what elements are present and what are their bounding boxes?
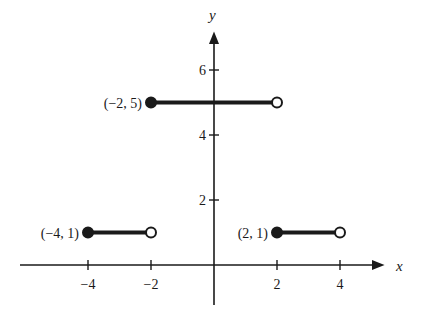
point-label: (−4, 1)	[41, 226, 80, 242]
step-function-plot: xy−4−224246 (−4, 1)(−2, 5)(2, 1)	[0, 0, 428, 326]
axes: xy−4−224246	[20, 7, 403, 305]
y-axis-label: y	[207, 7, 216, 23]
y-tick-label: 6	[199, 63, 206, 78]
segment-2: (−2, 5)	[104, 96, 282, 112]
x-tick-label: −4	[81, 277, 96, 292]
x-tick-label: 2	[274, 277, 281, 292]
segment-1: (−4, 1)	[41, 226, 156, 242]
point-label: (2, 1)	[238, 226, 269, 242]
point-label: (−2, 5)	[104, 96, 143, 112]
closed-endpoint	[83, 228, 93, 238]
y-tick-label: 2	[199, 193, 206, 208]
closed-endpoint	[146, 98, 156, 108]
closed-endpoint	[272, 228, 282, 238]
segment-3: (2, 1)	[238, 226, 345, 242]
segments: (−4, 1)(−2, 5)(2, 1)	[41, 96, 345, 242]
open-endpoint	[146, 228, 156, 238]
x-tick-label: 4	[337, 277, 344, 292]
y-tick-label: 4	[199, 128, 206, 143]
x-axis-label: x	[395, 258, 403, 274]
x-tick-label: −2	[144, 277, 159, 292]
open-endpoint	[272, 98, 282, 108]
open-endpoint	[335, 228, 345, 238]
